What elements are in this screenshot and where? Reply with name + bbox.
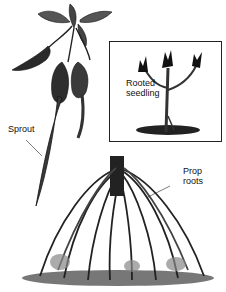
- right-pod: [71, 62, 88, 98]
- rooted-seedling-label-line2: seedling: [126, 88, 160, 98]
- hanging-pod-left: [12, 46, 50, 71]
- rooted-seedling-label-line1: Rooted: [126, 78, 155, 88]
- long-sprout: [36, 96, 62, 206]
- prop-roots-label-line2: roots: [183, 176, 203, 186]
- prop-roots-label-line1: Prop: [183, 166, 202, 176]
- curved-sprout: [78, 94, 83, 138]
- leaves: [38, 4, 112, 46]
- sprout-label: Sprout: [8, 124, 35, 134]
- sprout-pointer: [26, 140, 42, 156]
- rooted-seedling-inset: Rooted seedling: [109, 41, 222, 142]
